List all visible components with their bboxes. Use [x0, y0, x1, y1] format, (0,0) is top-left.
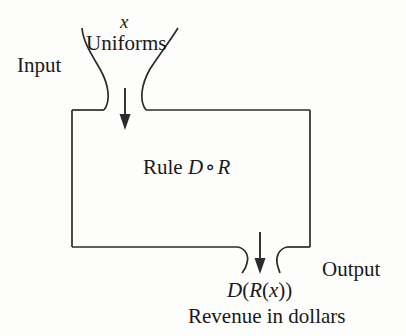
input-side-label: Input [17, 55, 61, 76]
input-arrow [120, 88, 131, 130]
machine-rule-label: Rule D∘R [143, 157, 230, 178]
output-outer-function: D [227, 278, 242, 302]
diagram-canvas: x Uniforms Input Rule D∘R Output D(R(x))… [0, 0, 406, 336]
input-description-label: Uniforms [86, 33, 167, 54]
output-paren-close-outer: ) [285, 278, 292, 302]
input-arrow-head [120, 114, 131, 130]
output-argument: x [269, 278, 278, 302]
output-inner-function: R [249, 278, 262, 302]
output-expression-label: D(R(x)) [227, 280, 292, 301]
composition-operator-icon: ∘ [203, 155, 217, 179]
rule-prefix-text: Rule [143, 155, 183, 179]
output-description-label: Revenue in dollars [188, 306, 345, 327]
output-paren-open-inner: ( [262, 278, 269, 302]
input-variable-label: x [120, 12, 128, 31]
output-side-label: Output [322, 259, 380, 280]
spout-right-curve [277, 247, 287, 273]
rule-second-function: R [217, 155, 230, 179]
spout-left-curve [238, 247, 248, 273]
rule-first-function: D [188, 155, 203, 179]
output-arrow [255, 232, 266, 274]
output-arrow-head [255, 258, 266, 274]
machine-body-outline [72, 28, 310, 273]
